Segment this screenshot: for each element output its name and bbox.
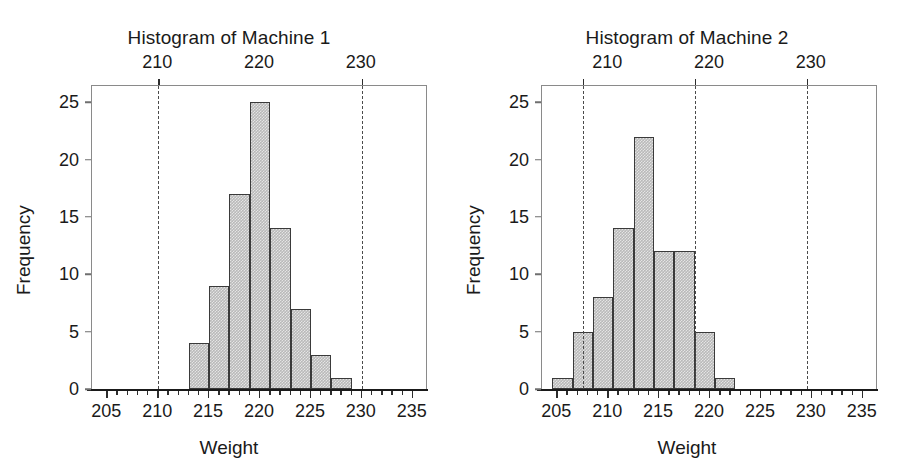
histogram-bar [674,251,694,389]
top-axis-labels-machine2: 210220230 [458,52,916,74]
x-axis-tick-label: 235 [847,401,877,422]
x-axis-minor-tick [628,391,629,395]
x-axis-minor-tick [831,391,832,395]
y-axis-label-machine1: Frequency [13,205,35,295]
histogram-bar [209,286,229,389]
x-axis-minor-tick [249,391,250,395]
x-axis-minor-tick [597,391,598,395]
x-axis-tick-label: 230 [346,401,376,422]
top-axis-tick [362,79,363,85]
x-axis-minor-tick [689,391,690,395]
y-axis-tick [85,331,91,333]
x-axis-minor-tick [279,391,280,395]
y-axis-tick [535,331,541,333]
x-axis-minor-tick [699,391,700,395]
y-axis-tick [85,216,91,218]
x-axis-minor-tick [116,391,117,395]
x-axis-minor-tick [566,391,567,395]
x-axis-tick-label: 205 [541,401,571,422]
x-axis-tick-label: 220 [694,401,724,422]
x-axis-minor-tick [137,391,138,395]
x-axis-major-tick [811,391,812,398]
chart-title-machine2: Histogram of Machine 2 [458,27,916,49]
x-axis-tick-label: 225 [295,401,325,422]
top-axis-tick [158,79,159,85]
x-axis-minor-tick [147,391,148,395]
x-axis-minor-tick [770,391,771,395]
x-axis-minor-tick [167,391,168,395]
x-axis-major-tick [709,391,710,398]
x-axis-label-machine2: Weight [458,437,916,459]
x-axis-minor-tick [841,391,842,395]
x-axis-minor-tick [320,391,321,395]
x-axis-minor-tick [648,391,649,395]
x-axis-minor-tick [239,391,240,395]
y-axis-tick-label: 15 [33,206,79,227]
spec-limit-line [695,86,696,389]
top-axis-tick [695,79,696,85]
x-axis-major-tick [862,391,863,398]
x-axis-minor-tick [290,391,291,395]
y-axis-tick-label: 5 [483,321,529,342]
histogram-bar [654,251,674,389]
x-axis-minor-tick [821,391,822,395]
top-axis-labels-machine1: 210220230 [0,52,458,74]
x-axis-minor-tick [740,391,741,395]
x-axis-minor-tick [178,391,179,395]
histogram-bar [189,343,209,389]
y-axis-tick-label: 5 [33,321,79,342]
plot-area-machine2 [541,85,877,389]
top-axis-tick-label: 230 [346,52,376,73]
x-axis-tick-label: 210 [142,401,172,422]
spec-limit-line [158,86,159,389]
x-axis-major-tick [607,391,608,398]
y-axis-tick [85,274,91,276]
x-axis-major-tick [412,391,413,398]
x-axis-minor-tick [638,391,639,395]
bars-machine1 [92,86,426,389]
x-axis-tick-label: 225 [745,401,775,422]
x-axis-major-tick [208,391,209,398]
x-axis-minor-tick [351,391,352,395]
y-axis-tick [535,101,541,103]
x-axis-minor-tick [678,391,679,395]
x-axis-label-machine1: Weight [0,437,458,459]
y-axis-tick [85,159,91,161]
bars-machine2 [542,86,876,389]
histogram-bar [331,378,351,389]
x-axis-tick-label: 230 [796,401,826,422]
spec-limit-line [583,86,584,389]
x-axis-minor-tick [228,391,229,395]
top-axis-tick-label: 220 [244,52,274,73]
y-axis-tick-label: 15 [483,206,529,227]
y-axis-tick [535,388,541,390]
top-axis-tick-label: 230 [796,52,826,73]
x-axis-minor-tick [587,391,588,395]
histogram-bar [311,355,331,389]
top-axis-tick-label: 210 [592,52,622,73]
x-axis-minor-tick [391,391,392,395]
x-axis-major-tick [658,391,659,398]
x-axis-minor-tick [300,391,301,395]
x-axis-minor-tick [577,391,578,395]
y-axis-label-machine2: Frequency [463,205,485,295]
x-axis-tick-label: 215 [643,401,673,422]
top-axis-tick [807,79,808,85]
x-axis-minor-tick [801,391,802,395]
histogram-bar [291,309,311,389]
x-axis-minor-tick [790,391,791,395]
x-axis-minor-tick [729,391,730,395]
x-axis-major-tick [556,391,557,398]
histogram-bar [695,332,715,389]
x-axis-tick-label: 235 [397,401,427,422]
y-axis-tick-label: 0 [33,379,79,400]
spec-limit-line [362,86,363,389]
x-axis-major-tick [259,391,260,398]
x-axis-minor-tick [218,391,219,395]
histogram-bar [552,378,572,389]
y-axis-tick [85,388,91,390]
x-axis-minor-tick [198,391,199,395]
y-axis-tick [85,101,91,103]
x-axis-minor-tick [127,391,128,395]
x-axis-minor-tick [188,391,189,395]
